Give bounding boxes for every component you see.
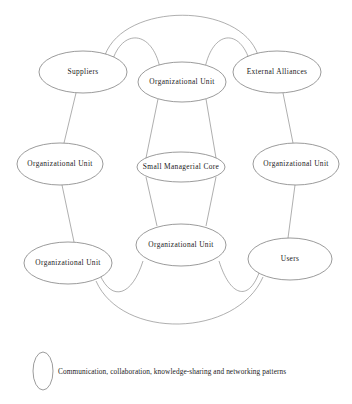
node-label-top-center-unit: Organizational Unit <box>149 77 215 86</box>
node-label-bottom-left-unit: Organizational Unit <box>35 258 101 267</box>
edge-arc-suppliers-external-top <box>105 15 258 55</box>
node-label-suppliers: Suppliers <box>67 67 98 76</box>
node-layer: SuppliersOrganizational UnitExternal All… <box>17 51 339 284</box>
node-top-center-unit[interactable]: Organizational Unit <box>138 62 226 102</box>
edge-line-core-bottomcenter-left <box>146 177 157 226</box>
edge-line-topcenter-core-left <box>146 99 158 158</box>
edge-line-external-rightmiddle <box>283 93 293 143</box>
node-left-middle-unit[interactable]: Organizational Unit <box>17 143 103 185</box>
edge-line-topcenter-core-right <box>206 99 216 158</box>
edge-line-core-bottomcenter-right <box>206 177 216 226</box>
node-users[interactable]: Users <box>248 238 332 280</box>
legend: Communication, collaboration, knowledge-… <box>33 352 286 390</box>
legend-ellipse-icon <box>33 352 53 390</box>
node-label-external-alliances: External Alliances <box>247 67 308 76</box>
node-right-middle-unit[interactable]: Organizational Unit <box>253 143 339 185</box>
legend-caption: Communication, collaboration, knowledge-… <box>58 367 286 376</box>
node-label-right-middle-unit: Organizational Unit <box>263 159 329 168</box>
edge-line-suppliers-leftmiddle <box>64 93 76 143</box>
edge-line-rightmiddle-users <box>288 185 295 238</box>
node-external-alliances[interactable]: External Alliances <box>233 51 321 93</box>
node-label-bottom-center-unit: Organizational Unit <box>148 240 214 249</box>
node-bottom-center-unit[interactable]: Organizational Unit <box>136 224 226 266</box>
node-label-users: Users <box>281 254 300 263</box>
network-diagram: SuppliersOrganizational UnitExternal All… <box>0 0 352 404</box>
node-suppliers[interactable]: Suppliers <box>39 51 127 93</box>
node-managerial-core[interactable]: Small Managerial Core <box>137 152 225 182</box>
edge-arc-bottomleft-users <box>96 277 263 324</box>
node-label-managerial-core: Small Managerial Core <box>143 162 220 171</box>
diagram-canvas: SuppliersOrganizational UnitExternal All… <box>0 0 352 404</box>
node-bottom-left-unit[interactable]: Organizational Unit <box>24 242 112 284</box>
node-label-left-middle-unit: Organizational Unit <box>27 159 93 168</box>
edge-line-leftmiddle-bottomleft <box>62 185 74 242</box>
